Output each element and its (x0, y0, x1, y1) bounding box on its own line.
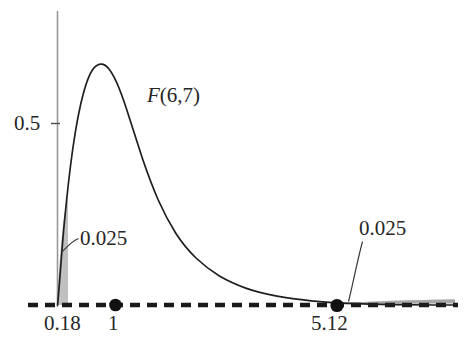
distribution-df2: 7 (183, 83, 194, 107)
distribution-open-paren: ( (160, 83, 167, 107)
x-axis-tick-label-upper-critical: 5.12 (311, 313, 348, 334)
marker-dot-one (109, 299, 122, 312)
x-axis-tick-label-one: 1 (108, 313, 119, 334)
right-tail-leader-line (349, 242, 363, 302)
x-axis-tick-label-lower-critical: 0.18 (44, 313, 81, 334)
right-tail-area-label: 0.025 (359, 218, 406, 239)
left-tail-area-label: 0.025 (80, 228, 127, 249)
y-axis-tick-label-0-5: 0.5 (14, 113, 40, 134)
f-distribution-figure: 0.5 F(6,7) 0.025 0.025 0.18 1 5.12 (0, 0, 470, 356)
distribution-close-paren: ) (193, 83, 200, 107)
distribution-df1: 6 (167, 83, 178, 107)
distribution-symbol: F (147, 83, 160, 107)
distribution-label: F(6,7) (147, 85, 200, 106)
plot-canvas (0, 0, 470, 356)
density-curve (58, 64, 457, 305)
